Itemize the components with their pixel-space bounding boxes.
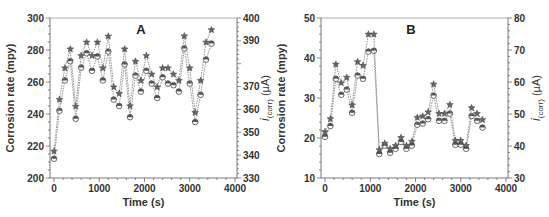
x-tick-label: 0: [322, 183, 328, 194]
data-point-star: [83, 39, 90, 46]
x-tick-label: 3000: [179, 183, 202, 194]
x-tick-label: 3000: [450, 183, 473, 194]
data-point-star: [332, 61, 339, 68]
y2-tick-label: 80: [514, 13, 526, 24]
data-point-star: [208, 26, 215, 33]
series-line: [325, 51, 482, 154]
y2-axis-title-sub: (corr): [536, 99, 545, 118]
y2-tick-label: 390: [243, 35, 260, 46]
data-point-star: [446, 101, 453, 108]
y-tick-label: 50: [304, 13, 316, 24]
y2-tick-label: 40: [514, 141, 526, 152]
data-point-star: [127, 102, 134, 109]
data-point-star: [72, 103, 79, 110]
y2-tick-label: 340: [243, 150, 260, 161]
y2-tick-label: 30: [514, 173, 526, 184]
chart-panel-a: 0100020003000400020022024026028030033034…: [4, 13, 274, 209]
data-point-circle: [106, 49, 112, 55]
y2-tick-label: 50: [514, 109, 526, 120]
y-axis-title: Corrosion rate (mpy): [4, 43, 16, 152]
data-point-circle: [84, 50, 90, 56]
data-point-circle: [100, 78, 106, 84]
data-point-circle: [149, 81, 155, 87]
x-tick-label: 4000: [224, 183, 247, 194]
x-axis-title: Time (s): [123, 196, 165, 208]
y2-tick-label: 360: [243, 104, 260, 115]
x-tick-label: 2000: [133, 183, 156, 194]
data-point-circle: [165, 81, 171, 87]
data-point-star: [441, 110, 448, 117]
y-tick-label: 220: [27, 141, 44, 152]
data-point-circle: [57, 108, 63, 114]
data-point-circle: [349, 110, 355, 116]
data-point-circle: [360, 76, 366, 82]
y-axis-title: Corrosion rate (mpy): [275, 43, 287, 152]
y-tick-label: 40: [304, 53, 316, 64]
y2-axis-title: i(corr) (µA): [529, 75, 545, 121]
x-tick-label: 1000: [359, 183, 382, 194]
data-point-circle: [51, 156, 57, 162]
data-point-circle: [192, 119, 198, 125]
data-point-circle: [176, 89, 182, 95]
y-tick-label: 10: [304, 173, 316, 184]
x-tick-label: 4000: [495, 183, 518, 194]
chart-panel-b: 010002000300040001020304050304050607080T…: [275, 13, 545, 209]
y2-tick-label: 350: [243, 127, 260, 138]
y2-axis-title-unit: (µA): [530, 75, 542, 99]
y-tick-label: 240: [27, 109, 44, 120]
data-point-circle: [171, 82, 177, 88]
data-point-circle: [116, 103, 122, 109]
data-point-circle: [138, 89, 144, 95]
data-point-circle: [154, 95, 160, 101]
data-point-star: [419, 113, 426, 120]
data-point-star: [159, 64, 166, 71]
data-point-circle: [442, 118, 448, 124]
y2-tick-label: 70: [514, 45, 526, 56]
figure: 0100020003000400020022024026028030033034…: [0, 0, 549, 217]
x-axis-title: Time (s): [394, 196, 436, 208]
series-line: [54, 30, 211, 151]
panel-label: B: [406, 22, 415, 37]
x-tick-label: 0: [51, 183, 57, 194]
y-tick-label: 280: [27, 45, 44, 56]
y-tick-label: 20: [304, 133, 316, 144]
data-point-star: [67, 45, 74, 52]
data-point-circle: [89, 68, 95, 74]
data-point-circle: [144, 68, 150, 74]
y2-tick-label: 400: [243, 13, 260, 24]
x-tick-label: 1000: [88, 183, 111, 194]
data-point-circle: [366, 49, 372, 55]
y-tick-label: 30: [304, 93, 316, 104]
data-point-circle: [209, 41, 215, 47]
y2-axis-title: i(corr) (µA): [258, 75, 274, 121]
data-point-circle: [111, 97, 117, 103]
data-point-star: [360, 62, 367, 69]
data-point-star: [327, 115, 334, 122]
data-point-star: [165, 64, 172, 71]
y2-axis-title-unit: (µA): [259, 75, 271, 99]
data-point-star: [132, 58, 139, 65]
y-tick-label: 300: [27, 13, 44, 24]
data-point-circle: [480, 125, 486, 131]
y2-axis-title-sub: (corr): [265, 99, 274, 118]
data-point-circle: [127, 114, 133, 120]
y2-tick-label: 370: [243, 81, 260, 92]
y2-tick-label: 330: [243, 173, 260, 184]
panel-label: A: [136, 22, 146, 37]
data-point-circle: [371, 48, 377, 54]
data-point-star: [110, 83, 117, 90]
data-point-circle: [338, 92, 344, 98]
data-point-circle: [436, 118, 442, 124]
y2-tick-label: 60: [514, 77, 526, 88]
data-point-circle: [73, 116, 79, 122]
y-tick-label: 260: [27, 77, 44, 88]
data-point-circle: [469, 113, 475, 119]
data-point-circle: [420, 121, 426, 127]
y-tick-label: 200: [27, 173, 44, 184]
data-point-circle: [67, 58, 73, 64]
x-tick-label: 2000: [404, 183, 427, 194]
data-point-circle: [78, 65, 84, 71]
data-point-star: [51, 148, 58, 155]
data-point-circle: [425, 116, 431, 122]
